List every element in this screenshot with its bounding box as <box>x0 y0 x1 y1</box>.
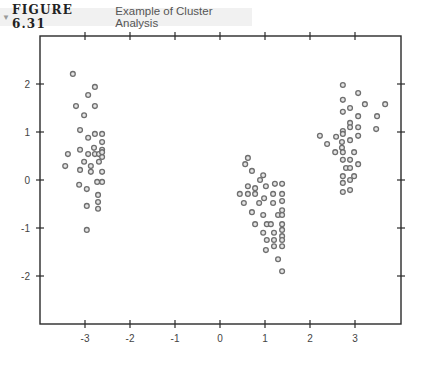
data-point <box>86 93 91 98</box>
data-point <box>66 152 71 157</box>
data-point <box>88 169 93 174</box>
data-point <box>257 201 262 206</box>
data-point <box>340 132 345 137</box>
data-point <box>88 164 93 169</box>
data-point <box>340 97 345 102</box>
data-point <box>348 157 353 162</box>
data-point <box>237 192 242 197</box>
data-point <box>348 188 353 193</box>
data-point <box>334 134 339 139</box>
x-tick-label: -3 <box>81 333 90 344</box>
data-point <box>63 164 68 169</box>
data-point <box>340 140 345 145</box>
plot-frame <box>40 36 401 324</box>
data-point <box>271 201 276 206</box>
data-point <box>93 84 98 89</box>
data-point <box>356 133 361 138</box>
data-point <box>280 199 285 204</box>
data-point <box>340 83 345 88</box>
data-points <box>63 72 388 274</box>
x-tick-label: 0 <box>217 333 223 344</box>
data-point <box>86 152 91 157</box>
data-point <box>352 174 357 179</box>
tick-labels: -3-2-10123210-1-2 <box>21 79 358 345</box>
data-point <box>340 109 345 114</box>
data-point <box>96 200 101 205</box>
data-point <box>273 181 278 186</box>
scatter-plot: -3-2-10123210-1-2 <box>0 0 425 367</box>
data-point <box>272 244 277 249</box>
data-point <box>82 159 87 164</box>
y-tick-label: 0 <box>24 175 30 186</box>
data-point <box>356 125 361 130</box>
data-point <box>272 238 277 243</box>
data-point <box>100 155 105 160</box>
data-point <box>241 201 246 206</box>
data-point <box>340 157 345 162</box>
data-point <box>253 222 258 227</box>
data-point <box>86 135 91 140</box>
data-point <box>383 102 388 107</box>
data-point <box>348 138 353 143</box>
data-point <box>78 168 83 173</box>
data-point <box>77 182 82 187</box>
data-point <box>356 91 361 96</box>
data-point <box>95 180 100 185</box>
data-point <box>246 192 251 197</box>
data-point <box>280 181 285 186</box>
data-point <box>356 114 361 119</box>
data-point <box>375 114 380 119</box>
x-tick-label: 2 <box>307 333 313 344</box>
data-point <box>246 184 251 189</box>
data-point <box>280 208 285 213</box>
y-tick-label: -2 <box>21 271 30 282</box>
data-point <box>74 104 79 109</box>
data-point <box>280 222 285 227</box>
data-point <box>280 244 285 249</box>
data-point <box>246 156 251 161</box>
data-point <box>348 178 353 183</box>
data-point <box>352 150 357 155</box>
data-point <box>264 184 269 189</box>
x-tick-label: 1 <box>262 333 268 344</box>
data-point <box>325 142 330 147</box>
data-point <box>261 213 266 218</box>
data-point <box>318 133 323 138</box>
data-point <box>258 178 263 183</box>
data-point <box>261 173 266 178</box>
data-point <box>70 72 75 77</box>
data-point <box>92 145 97 150</box>
data-point <box>340 190 345 195</box>
data-point <box>100 169 105 174</box>
data-point <box>262 196 267 201</box>
series-cluster-3 <box>318 83 388 195</box>
data-point <box>276 257 281 262</box>
data-point <box>348 125 353 130</box>
data-point <box>96 206 101 211</box>
data-point <box>280 228 285 233</box>
data-point <box>84 187 89 192</box>
data-point <box>96 192 101 197</box>
y-tick-label: 1 <box>24 127 30 138</box>
data-point <box>82 113 87 118</box>
series-cluster-2 <box>237 156 284 274</box>
data-point <box>84 228 89 233</box>
data-point <box>93 132 98 137</box>
data-point <box>272 230 277 235</box>
data-point <box>97 159 102 164</box>
data-point <box>348 106 353 111</box>
data-point <box>78 128 83 133</box>
plot-border <box>40 36 401 324</box>
x-tick-label: -1 <box>171 333 180 344</box>
data-point <box>250 168 255 173</box>
data-point <box>333 150 338 155</box>
data-point <box>280 269 285 274</box>
data-point <box>78 147 83 152</box>
y-tick-label: -1 <box>21 223 30 234</box>
data-point <box>253 192 258 197</box>
data-point <box>374 127 379 132</box>
data-point <box>340 180 345 185</box>
series-cluster-1 <box>63 72 105 233</box>
data-point <box>250 210 255 215</box>
data-point <box>280 213 285 218</box>
